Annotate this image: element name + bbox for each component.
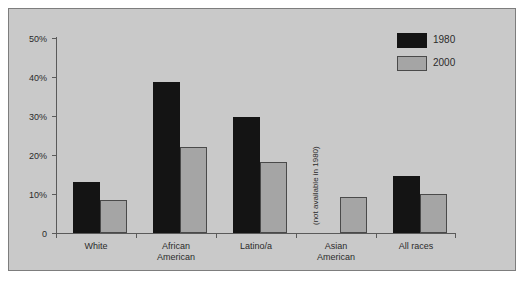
- y-tick-label-50: 50%: [29, 34, 47, 43]
- y-tick-label-10: 10%: [29, 190, 47, 199]
- bar-group-african-american: African American: [136, 37, 216, 233]
- y-tick-label-40: 40%: [29, 73, 47, 82]
- bar-group-white: White: [56, 37, 136, 233]
- legend-swatch-2000-icon: [397, 56, 427, 71]
- y-tick-label-0: 0: [42, 229, 47, 238]
- legend-swatch-1980-icon: [397, 33, 427, 48]
- bar-latino-2000[interactable]: [260, 162, 287, 233]
- bar-group-latino: Latino/a: [216, 37, 296, 233]
- x-tick-5: [455, 234, 456, 238]
- chart-figure: 0 10% 20% 30% 40% 50% White: [8, 8, 516, 271]
- plot-area: 0 10% 20% 30% 40% 50% White: [56, 37, 456, 234]
- x-tick-2: [216, 234, 217, 238]
- x-label-asian-american: Asian American: [296, 241, 376, 263]
- x-axis-line: [56, 233, 456, 234]
- bar-african-american-1980[interactable]: [153, 82, 180, 233]
- chart-legend: 1980 2000: [397, 31, 497, 77]
- bar-all-races-2000[interactable]: [420, 194, 447, 233]
- bar-asian-american-2000[interactable]: [340, 197, 367, 233]
- x-label-white: White: [56, 241, 136, 252]
- bar-latino-1980[interactable]: [233, 117, 260, 233]
- legend-item-2000[interactable]: 2000: [397, 54, 497, 72]
- x-label-all-races: All races: [376, 241, 456, 252]
- bar-group-asian-american: (not available in 1980) Asian American: [296, 37, 376, 233]
- x-label-african-american: African American: [136, 241, 216, 263]
- not-available-annotation: (not available in 1980): [312, 146, 320, 225]
- x-label-latino: Latino/a: [216, 241, 296, 252]
- y-tick-label-30: 30%: [29, 112, 47, 121]
- x-tick-3: [296, 234, 297, 238]
- bar-african-american-2000[interactable]: [180, 147, 207, 233]
- y-tick-label-20: 20%: [29, 151, 47, 160]
- bar-all-races-1980[interactable]: [393, 176, 420, 233]
- legend-item-1980[interactable]: 1980: [397, 31, 497, 49]
- bar-white-2000[interactable]: [100, 200, 127, 233]
- x-tick-4: [376, 234, 377, 238]
- legend-label-1980: 1980: [433, 35, 455, 45]
- x-tick-1: [136, 234, 137, 238]
- x-tick-0: [56, 234, 57, 238]
- legend-label-2000: 2000: [433, 58, 455, 68]
- bar-white-1980[interactable]: [73, 182, 100, 233]
